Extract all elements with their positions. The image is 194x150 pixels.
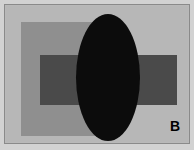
center-ellipse-shape xyxy=(76,14,140,141)
figure-canvas: B xyxy=(6,6,188,142)
figure-panel: B xyxy=(0,0,194,150)
panel-label: B xyxy=(170,119,180,133)
